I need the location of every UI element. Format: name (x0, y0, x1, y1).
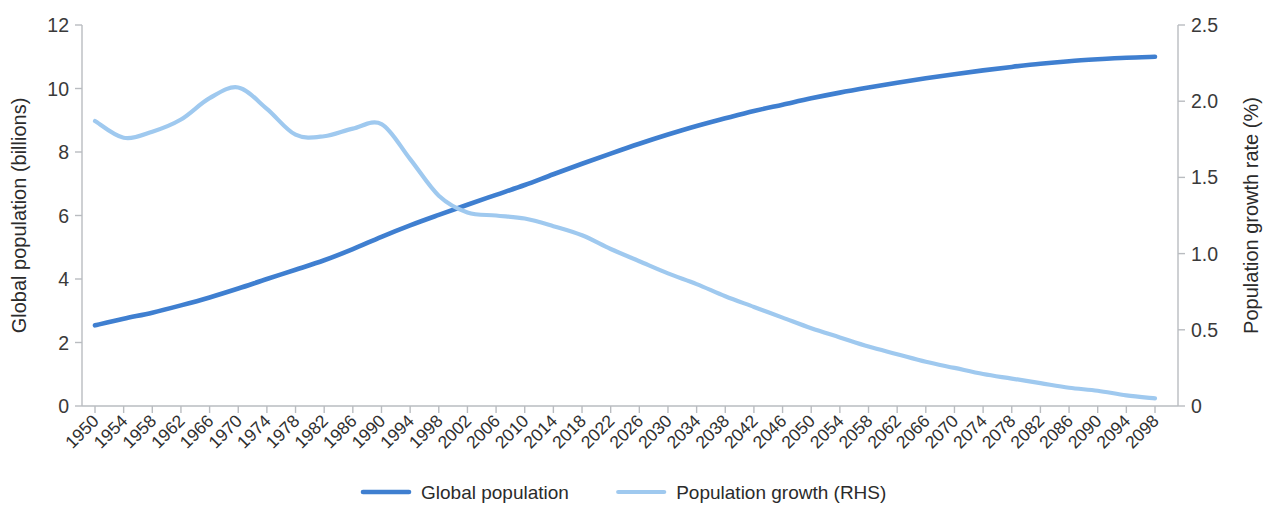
legend-label-global-population: Global population (421, 482, 569, 503)
plot-series-group (95, 57, 1155, 399)
right-axis: 00.51.01.52.02.5 Population growth rate … (1178, 14, 1262, 417)
right-axis-tick-label: 1.0 (1191, 243, 1218, 265)
left-axis-tick-label: 6 (58, 205, 69, 227)
right-axis-ticks: 00.51.01.52.02.5 (1178, 14, 1218, 417)
x-axis-ticks (95, 406, 1155, 413)
left-axis-tick-label: 0 (58, 395, 69, 417)
x-axis: 1950195419581962196619701974197819821986… (61, 406, 1178, 452)
legend-label-population-growth: Population growth (RHS) (676, 482, 886, 503)
population-growth-chart: 024681012 Global population (billions) 0… (0, 0, 1271, 506)
right-axis-title: Population growth rate (%) (1240, 97, 1262, 334)
right-axis-tick-label: 1.5 (1191, 166, 1218, 188)
right-axis-tick-label: 0 (1191, 395, 1202, 417)
right-axis-tick-label: 2.0 (1191, 90, 1218, 112)
x-axis-tick-labels: 1950195419581962196619701974197819821986… (61, 411, 1163, 453)
left-axis-title: Global population (billions) (8, 98, 30, 334)
left-axis-tick-label: 2 (58, 332, 69, 354)
left-axis: 024681012 Global population (billions) (8, 14, 82, 417)
left-axis-ticks: 024681012 (47, 14, 82, 417)
right-axis-tick-label: 0.5 (1191, 319, 1218, 341)
chart-legend: Global populationPopulation growth (RHS) (363, 482, 886, 503)
x-axis-tick-label: 2098 (1121, 411, 1163, 453)
series-line-population-growth (95, 87, 1155, 398)
left-axis-tick-label: 8 (58, 141, 69, 163)
right-axis-tick-label: 2.5 (1191, 14, 1218, 36)
left-axis-tick-label: 4 (58, 268, 69, 290)
chart-canvas: 024681012 Global population (billions) 0… (0, 0, 1271, 506)
left-axis-tick-label: 10 (47, 78, 69, 100)
left-axis-tick-label: 12 (47, 14, 69, 36)
